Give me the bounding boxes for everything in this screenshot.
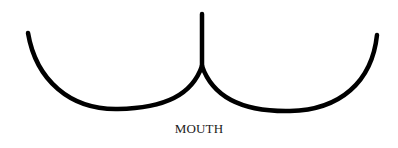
diagram-label: MOUTH: [0, 121, 398, 137]
right-lobe-curve: [202, 35, 377, 111]
left-lobe-curve: [28, 33, 202, 109]
